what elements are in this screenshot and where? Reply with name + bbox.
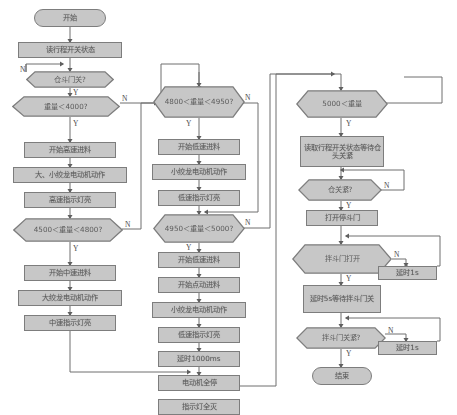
decision-label: 仓斗门关? (26, 71, 114, 88)
node-slow-indicator-lamp-on-2: 低速指示灯亮 (158, 327, 240, 343)
node-start-micro-feed: 开始低速进料 (158, 252, 240, 268)
node-decision-weight-4950-5000: 4950＜重量＜5000? (153, 214, 245, 243)
branch-label-no-w4000: N (122, 94, 127, 103)
branch-label-no-w4950: N (245, 218, 250, 227)
node-decision-weight-lt-4000: 重量＜4000? (12, 96, 120, 117)
node-read-switch-status: 读行程开关状态 (18, 42, 122, 58)
node-lamps-all-off: 指示灯全灭 (158, 399, 240, 415)
node-mid-indicator-lamp-on: 中速指示灯亮 (24, 315, 116, 331)
decision-label: 4500＜重量＜4800? (13, 218, 123, 242)
node-end: 结束 (312, 367, 372, 385)
node-motors-all-stop: 电动机全停 (158, 375, 240, 391)
branch-label-no-bin-tight: N (384, 181, 389, 190)
decision-label: 5000＜重量 (296, 90, 388, 118)
decision-label: 仓关紧? (298, 179, 382, 201)
branch-label-yes-w4000: Y (73, 119, 78, 128)
branch-label-yes-w5000: Y (346, 119, 351, 128)
node-small-auger-motor-action-2: 小绞龙电动机动作 (152, 302, 246, 318)
node-big-auger-motor-action: 大绞龙电动机动作 (18, 290, 122, 306)
branch-label-yes-w4800: Y (186, 119, 191, 128)
node-read-switch-wait-bin-tight: 读取行程开关状态等待仓头关紧 (300, 136, 384, 167)
branch-label-no-door-closed: N (20, 65, 25, 74)
branch-label-yes-w4500: Y (73, 244, 78, 253)
node-open-mixer-door: 打开停斗门 (306, 210, 378, 226)
node-delay-1000ms: 延时1000ms (158, 351, 240, 367)
branch-label-yes-bin-tight: Y (346, 201, 351, 210)
node-start-point-feed: 开始点动进料 (158, 277, 240, 293)
node-start: 开始 (34, 9, 106, 27)
decision-label: 拌斗门打开 (292, 244, 392, 274)
node-decision-bin-tight: 仓关紧? (298, 179, 382, 201)
branch-label-yes-w4950: Y (186, 243, 191, 252)
decision-label: 4800＜重量＜4950? (153, 86, 245, 118)
node-start-fast-feed: 开始高速进料 (24, 142, 116, 158)
node-decision-mixer-door-open: 拌斗门打开 (292, 244, 392, 274)
decision-label: 重量＜4000? (12, 96, 120, 117)
node-start-mid-feed: 开始中速进料 (24, 265, 116, 281)
decision-label: 拌斗门关紧? (296, 327, 386, 349)
node-big-small-auger-motor-action: 大、小绞龙电动机动作 (13, 167, 127, 183)
branch-label-no-w4500: N (125, 220, 130, 229)
node-decision-mixer-door-closed-tight: 拌斗门关紧? (296, 327, 386, 349)
branch-label-yes-door-closed2: Y (346, 349, 351, 358)
node-delay-5s-wait-door-close: 延时5s等待拌斗门关 (303, 285, 381, 313)
branch-label-yes-door-open: Y (346, 274, 351, 283)
node-delay-1s-b: 延时1s (378, 341, 437, 355)
node-fast-indicator-lamp-on: 高速指示灯亮 (24, 192, 116, 208)
node-decision-weight-4500-4800: 4500＜重量＜4800? (13, 218, 123, 242)
branch-label-no-w4800: N (245, 93, 250, 102)
branch-label-no-door-closed2: N (388, 326, 393, 335)
node-small-auger-motor-action: 小绞龙电动机动作 (152, 164, 246, 180)
node-decision-weight-gt-5000: 5000＜重量 (296, 90, 388, 118)
branch-label-no-door-open: N (394, 250, 399, 259)
decision-label: 4950＜重量＜5000? (153, 214, 245, 243)
node-start-slow-feed: 开始低速进料 (158, 139, 240, 155)
node-decision-weight-4800-4950: 4800＜重量＜4950? (153, 86, 245, 118)
node-slow-indicator-lamp-on: 低速指示灯亮 (158, 190, 240, 206)
node-decision-door-closed: 仓斗门关? (26, 71, 114, 88)
